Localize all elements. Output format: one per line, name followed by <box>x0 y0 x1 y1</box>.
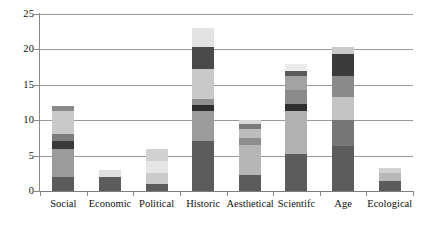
x-label-scientifc: Scientifc <box>273 198 320 210</box>
y-tick-mark-10 <box>34 120 39 121</box>
y-tick-label-25: 25 <box>4 9 34 20</box>
bar-segment <box>239 124 261 128</box>
x-tick-mark <box>413 191 414 196</box>
y-tick-label-5: 5 <box>4 151 34 162</box>
bar-political[interactable] <box>146 149 168 191</box>
x-tick-mark <box>273 191 274 196</box>
bar-segment <box>332 120 354 146</box>
y-tick-mark-20 <box>34 49 39 50</box>
bar-segment <box>332 146 354 191</box>
bar-segment <box>239 145 261 175</box>
x-label-age: Age <box>320 198 367 210</box>
bar-historic[interactable] <box>192 28 214 191</box>
bar-segment <box>239 175 261 191</box>
x-label-social: Social <box>40 198 87 210</box>
bar-segment <box>285 90 307 104</box>
x-label-aesthetical: Aesthetical <box>227 198 274 210</box>
bar-segment <box>332 97 354 120</box>
bar-segment <box>52 111 74 134</box>
x-label-political: Political <box>133 198 180 210</box>
bar-segment <box>192 69 214 99</box>
bar-segment <box>192 99 214 105</box>
y-tick-mark-15 <box>34 85 39 86</box>
plot-area <box>40 14 413 191</box>
bar-segment <box>99 177 121 191</box>
bar-age[interactable] <box>332 47 354 191</box>
bar-economic[interactable] <box>99 170 121 191</box>
bar-segment <box>239 129 261 138</box>
x-label-ecological: Ecological <box>366 198 413 210</box>
bar-segment <box>52 149 74 177</box>
bar-segment <box>52 177 74 191</box>
x-tick-mark <box>366 191 367 196</box>
bar-segment <box>146 161 168 174</box>
x-label-economic: Economic <box>87 198 134 210</box>
bar-segment <box>192 141 214 191</box>
y-tick-label-10: 10 <box>4 115 34 126</box>
x-tick-mark <box>133 191 134 196</box>
bar-segment <box>285 104 307 111</box>
bar-ecological[interactable] <box>379 168 401 191</box>
bar-segment <box>332 47 354 54</box>
bar-segment <box>285 111 307 154</box>
bar-segment <box>379 181 401 191</box>
bar-segment <box>285 76 307 89</box>
bar-segment <box>379 173 401 181</box>
bar-segment <box>52 106 74 111</box>
bar-segment <box>332 54 354 76</box>
bar-segment <box>285 154 307 191</box>
bar-segment <box>52 141 74 148</box>
bar-segment <box>146 184 168 191</box>
bar-segment <box>192 28 214 47</box>
bar-scientifc[interactable] <box>285 64 307 191</box>
bar-social[interactable] <box>52 106 74 191</box>
bar-segment <box>52 134 74 141</box>
bar-segment <box>285 71 307 77</box>
bar-segment <box>285 64 307 71</box>
x-tick-mark <box>87 191 88 196</box>
bar-segment <box>192 111 214 141</box>
bar-segment <box>146 173 168 184</box>
bar-segment <box>332 76 354 97</box>
bar-segment <box>99 170 121 177</box>
bar-segment <box>192 47 214 69</box>
y-tick-label-15: 15 <box>4 80 34 91</box>
y-tick-mark-5 <box>34 156 39 157</box>
y-tick-mark-25 <box>34 14 39 15</box>
bar-segment <box>146 149 168 161</box>
bar-series <box>40 14 413 191</box>
bar-segment <box>192 105 214 111</box>
bar-segment <box>239 138 261 145</box>
x-tick-mark <box>227 191 228 196</box>
x-tick-mark <box>180 191 181 196</box>
y-tick-label-20: 20 <box>4 44 34 55</box>
x-axis-category-labels: SocialEconomicPoliticalHistoricAesthetic… <box>40 198 413 220</box>
bar-segment <box>379 168 401 174</box>
y-tick-label-0: 0 <box>4 186 34 197</box>
stacked-bar-chart: 0510152025 SocialEconomicPoliticalHistor… <box>0 0 421 225</box>
bar-segment <box>239 120 261 124</box>
x-tick-mark <box>320 191 321 196</box>
bar-aesthetical[interactable] <box>239 120 261 191</box>
x-label-historic: Historic <box>180 198 227 210</box>
x-tick-mark <box>40 191 41 196</box>
